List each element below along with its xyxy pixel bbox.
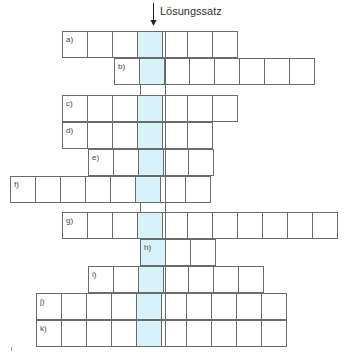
letter-cell[interactable] (261, 320, 287, 347)
solution-cell[interactable] (136, 293, 162, 320)
crossword-row-h: h) (140, 239, 216, 266)
letter-cell[interactable] (212, 212, 238, 239)
letter-cell[interactable] (87, 212, 113, 239)
letter-cell[interactable]: a) (62, 31, 88, 58)
letter-cell[interactable] (189, 58, 215, 85)
letter-cell[interactable] (162, 122, 188, 149)
letter-cell[interactable] (111, 320, 137, 347)
letter-cell[interactable] (190, 239, 216, 266)
letter-cell[interactable] (112, 31, 138, 58)
letter-cell[interactable]: k) (36, 320, 62, 347)
letter-cell[interactable] (162, 31, 188, 58)
crossword-row-e: e) (88, 149, 214, 176)
letter-cell[interactable] (264, 58, 290, 85)
row-label: e) (92, 153, 99, 162)
letter-cell[interactable] (110, 176, 136, 203)
crossword-row-a: a) (62, 31, 238, 58)
letter-cell[interactable] (236, 320, 262, 347)
solution-cell[interactable] (137, 212, 163, 239)
letter-cell[interactable] (262, 212, 288, 239)
letter-cell[interactable] (188, 266, 214, 293)
letter-cell[interactable] (113, 266, 139, 293)
letter-cell[interactable] (61, 293, 87, 320)
solution-cell[interactable] (136, 320, 162, 347)
solution-label: Lösungssatz (160, 5, 222, 17)
letter-cell[interactable] (239, 58, 265, 85)
letter-cell[interactable]: c) (62, 95, 88, 122)
letter-cell[interactable] (312, 212, 338, 239)
letter-cell[interactable] (187, 31, 213, 58)
letter-cell[interactable] (188, 149, 214, 176)
letter-cell[interactable] (236, 293, 262, 320)
letter-cell[interactable] (214, 58, 240, 85)
solution-cell[interactable] (139, 58, 165, 85)
row-label: i) (92, 270, 96, 279)
row-label: c) (66, 99, 73, 108)
letter-cell[interactable] (289, 58, 315, 85)
letter-cell[interactable] (187, 95, 213, 122)
letter-cell[interactable] (211, 293, 237, 320)
crossword-row-g: g) (62, 212, 338, 239)
letter-cell[interactable] (212, 31, 238, 58)
solution-cell[interactable] (135, 176, 161, 203)
row-label: f) (14, 180, 19, 189)
row-label: d) (66, 126, 73, 135)
letter-cell[interactable] (61, 320, 87, 347)
solution-cell[interactable] (137, 95, 163, 122)
letter-cell[interactable] (35, 176, 61, 203)
solution-cell[interactable] (137, 122, 163, 149)
solution-cell[interactable]: h) (140, 239, 166, 266)
letter-cell[interactable] (186, 293, 212, 320)
row-label: b) (118, 62, 125, 71)
row-label: g) (66, 216, 73, 225)
letter-cell[interactable] (237, 212, 263, 239)
letter-cell[interactable] (213, 266, 239, 293)
letter-cell[interactable] (160, 176, 186, 203)
letter-cell[interactable] (60, 176, 86, 203)
letter-cell[interactable] (162, 95, 188, 122)
letter-cell[interactable]: f) (10, 176, 36, 203)
letter-cell[interactable] (186, 320, 212, 347)
letter-cell[interactable] (163, 266, 189, 293)
letter-cell[interactable] (87, 95, 113, 122)
letter-cell[interactable] (165, 239, 191, 266)
letter-cell[interactable] (163, 149, 189, 176)
letter-cell[interactable] (187, 212, 213, 239)
row-label: j) (40, 297, 44, 306)
letter-cell[interactable] (185, 176, 211, 203)
solution-cell[interactable] (138, 266, 164, 293)
letter-cell[interactable] (287, 212, 313, 239)
letter-cell[interactable] (112, 122, 138, 149)
letter-cell[interactable] (162, 212, 188, 239)
crossword-row-c: c) (62, 95, 238, 122)
crossword-row-f: f) (10, 176, 211, 203)
letter-cell[interactable] (211, 320, 237, 347)
letter-cell[interactable] (261, 293, 287, 320)
letter-cell[interactable] (86, 320, 112, 347)
letter-cell[interactable] (87, 31, 113, 58)
letter-cell[interactable] (212, 95, 238, 122)
letter-cell[interactable] (112, 95, 138, 122)
letter-cell[interactable] (187, 122, 213, 149)
letter-cell[interactable]: j) (36, 293, 62, 320)
letter-cell[interactable]: g) (62, 212, 88, 239)
letter-cell[interactable] (238, 266, 264, 293)
letter-cell[interactable]: d) (62, 122, 88, 149)
letter-cell[interactable]: b) (114, 58, 140, 85)
crossword-row-k: k) (36, 320, 287, 347)
letter-cell[interactable] (112, 212, 138, 239)
letter-cell[interactable]: i) (88, 266, 114, 293)
solution-cell[interactable] (138, 149, 164, 176)
letter-cell[interactable]: e) (88, 149, 114, 176)
letter-cell[interactable] (164, 58, 190, 85)
letter-cell[interactable] (85, 176, 111, 203)
letter-cell[interactable] (161, 320, 187, 347)
letter-cell[interactable] (111, 293, 137, 320)
letter-cell[interactable] (86, 293, 112, 320)
letter-cell[interactable] (113, 149, 139, 176)
solution-cell[interactable] (137, 31, 163, 58)
letter-cell[interactable] (161, 293, 187, 320)
letter-cell[interactable] (87, 122, 113, 149)
crossword-row-i: i) (88, 266, 264, 293)
crossword-row-b: b) (114, 58, 315, 85)
